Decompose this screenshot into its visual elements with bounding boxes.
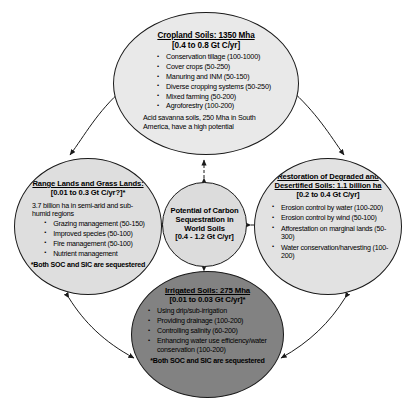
list-item: Agroforestry (100-200) [157,102,271,111]
diagram-canvas: Cropland Soils: 1350 Mha [0.4 to 0.8 Gt … [0,0,407,407]
list-item: Cover crops (50-250) [157,63,271,72]
cropland-note: Acid savanna soils, 250 Mha in South Ame… [143,114,269,131]
restoration-subtitle: [0.2 to 0.4 Gt C/yr] [297,191,360,200]
list-item: Water conservation/harvesting (100-200) [272,244,394,261]
list-item: Afforestation on marginal lands (50-300) [272,225,394,242]
list-item: Improved species (50-100) [44,230,145,239]
restoration-bullets: Erosion control by water (100-200) Erosi… [272,204,394,263]
list-item: Using drip/sub-irrigation [148,307,275,316]
range-subtitle: [0.01 to 0.3 Gt C/yr?]* [51,189,126,198]
range-footnote: *Both SOC and SIC are sequestered [31,261,145,269]
node-cropland-soils[interactable]: Cropland Soils: 1350 Mha [0.4 to 0.8 Gt … [113,12,299,155]
irrigated-title: Irrigated Soils: 275 Mha [165,286,250,295]
list-item: Conservation tillage (100-1000) [157,53,271,62]
connector-range-irrigated [69,298,134,358]
center-line-4: [0.4 - 1.2 Gt C/yr] [175,233,233,242]
list-item: Mixed farming (50-200) [157,93,271,102]
cropland-bullets: Conservation tillage (100-1000) Cover cr… [157,53,271,112]
cropland-subtitle: [0.4 to 0.8 Gt C/yr] [172,41,240,51]
list-item: Providing drainage (100-200) [148,317,275,326]
connector-restoration-irrigated [281,298,345,358]
node-irrigated-soils[interactable]: Irrigated Soils: 275 Mha [0.01 to 0.03 G… [131,271,284,398]
list-item: Enhancing water use efficiency/water con… [148,337,275,354]
range-note: 3.7 billion ha in semi-arid and sub-humi… [32,202,144,219]
node-range-lands[interactable]: Range Lands and Grass Lands: [0.01 to 0.… [14,158,162,295]
range-bullets: Grazing management (50-150) Improved spe… [44,220,145,260]
cropland-title: Cropland Soils: 1350 Mha [157,31,254,41]
connector-cropland-restoration [290,89,344,155]
node-center-potential[interactable]: Potential of Carbon Sequestration in Wor… [162,182,247,267]
list-item: Grazing management (50-150) [44,220,145,229]
list-item: Fire management (50-100) [44,240,145,249]
list-item: Controlling salinity (60-200) [148,327,275,336]
list-item: Nutrient management [44,250,145,259]
list-item: Diverse cropping systems (50-250) [157,83,271,92]
restoration-title: Restoration of Degraded and Desertified … [262,173,394,191]
list-item: Erosion control by wind (50-100) [272,214,394,223]
irrigated-subtitle: [0.01 to 0.03 Gt C/yr]* [169,295,245,304]
irrigated-footnote: *Both SOC and SIC are sequestered [150,357,264,365]
irrigated-bullets: Using drip/sub-irrigation Providing drai… [148,307,275,356]
list-item: Manuring and INM (50-150) [157,73,271,82]
list-item: Erosion control by water (100-200) [272,204,394,213]
node-restoration-soils[interactable]: Restoration of Degraded and Desertified … [254,158,402,295]
